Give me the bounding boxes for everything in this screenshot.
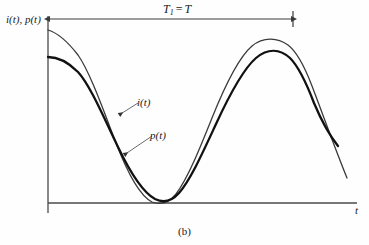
leader-line-pt xyxy=(124,136,152,155)
curve-power-pt xyxy=(48,30,347,203)
leader-line-it xyxy=(119,103,138,115)
t-axis-label: t xyxy=(355,205,358,216)
curve-current-it xyxy=(48,51,338,201)
period-equals: = xyxy=(174,2,185,16)
y-axis-label: i(t), p(t) xyxy=(6,14,41,25)
curve-label-power: p(t) xyxy=(150,130,166,141)
curve-label-current: i(t) xyxy=(137,97,150,108)
figure-container: i(t), p(t) T1=T i(t) p(t) t (b) xyxy=(0,0,369,245)
subfigure-caption: (b) xyxy=(178,226,191,237)
plot-canvas xyxy=(0,0,369,245)
period-label: T1=T xyxy=(163,3,191,17)
period-value: T xyxy=(184,2,191,16)
period-symbol: T xyxy=(163,2,170,16)
